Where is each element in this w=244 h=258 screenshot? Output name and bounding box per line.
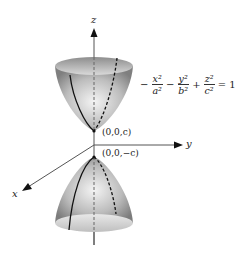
equation-term-z: z² c² <box>204 73 215 96</box>
z-axis-label: z <box>91 15 96 25</box>
equation-rhs: = 1 <box>217 79 237 90</box>
equation-sign-1: − <box>139 79 149 90</box>
upper-vertex-label: (0,0,c) <box>102 128 131 137</box>
x-axis-label: x <box>12 189 18 199</box>
equation: − x² a² − y² b² + z² c² = 1 <box>139 73 237 96</box>
equation-sign-3: + <box>191 79 201 90</box>
lower-vertex-label: (0,0,−c) <box>102 149 139 158</box>
upper-sheet <box>55 57 133 133</box>
y-axis-label: y <box>186 139 192 149</box>
lower-sheet <box>55 155 133 245</box>
equation-term-y: y² b² <box>177 73 189 96</box>
equation-term-x: x² a² <box>151 73 162 96</box>
equation-sign-2: − <box>165 79 175 90</box>
